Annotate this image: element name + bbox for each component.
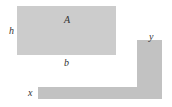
y-label: y	[149, 32, 153, 42]
height-label: h	[9, 26, 14, 36]
area-label: A	[64, 15, 70, 25]
x-label: x	[28, 88, 32, 98]
width-label: b	[64, 58, 69, 68]
l-shape-horizontal-bar	[38, 87, 162, 99]
